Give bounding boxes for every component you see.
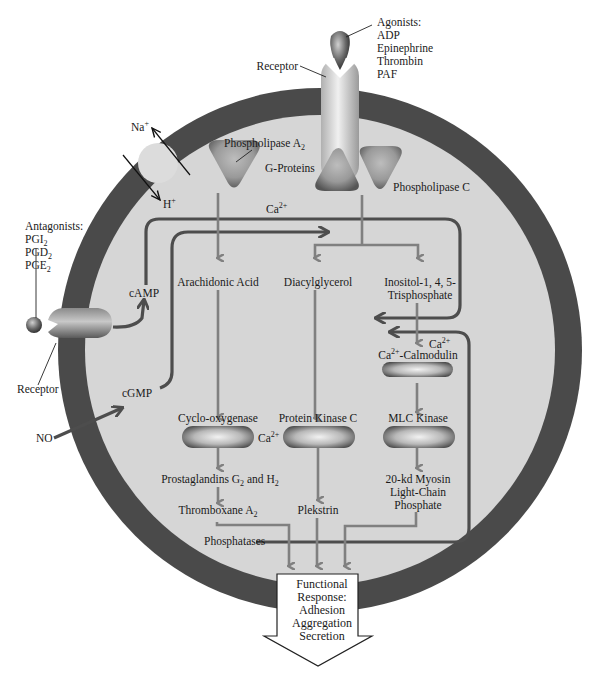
plekstrin-label: Plekstrin xyxy=(298,504,339,517)
cyclo-oxygenase-label: Cyclo-oxygenase xyxy=(178,412,258,425)
myosin-label-line3: Phosphate xyxy=(394,499,441,512)
g-proteins-label: G-Proteins xyxy=(265,162,315,175)
left-receptor-label: Receptor xyxy=(17,383,59,396)
calmodulin-capsule xyxy=(382,362,453,377)
na-ion-label: Na+ xyxy=(131,121,149,134)
response-line-5: Secretion xyxy=(285,630,359,643)
agonist-leader xyxy=(346,25,372,37)
agonists-header: Agonists: xyxy=(377,16,421,29)
thromboxane-label: Thromboxane A2 xyxy=(178,504,257,517)
agonist-adp: ADP xyxy=(377,29,400,42)
agonist-thrombin: Thrombin xyxy=(377,55,423,68)
top-receptor-label: Receptor xyxy=(256,60,298,73)
prostaglandins-label: Prostaglandins G2 and H2 xyxy=(161,473,279,486)
ip3-label-line1: Inositol-1, 4, 5- xyxy=(384,276,456,289)
functional-response-text: Functional Response: Adhesion Aggregatio… xyxy=(285,578,359,643)
phosphatases-label: Phosphatases xyxy=(204,535,265,548)
phospholipase-c-label: Phospholipase C xyxy=(393,181,470,194)
antagonist-pgd2: PGD2 xyxy=(25,246,52,259)
antagonist-pge2: PGE2 xyxy=(25,259,51,272)
arachidonic-acid-label: Arachidonic Acid xyxy=(177,276,258,289)
cgmp-label: cGMP xyxy=(122,387,152,400)
ip3-label-line2: Trisphosphate xyxy=(388,289,453,302)
left-receptor xyxy=(48,308,112,338)
calmodulin-label: Ca2+-Calmodulin xyxy=(378,349,457,362)
agonist-epinephrine: Epinephrine xyxy=(377,42,433,55)
myosin-label-line2: Light-Chain xyxy=(390,486,446,499)
antagonist-pgi2: PGI2 xyxy=(25,233,48,246)
mlc-kinase-capsule xyxy=(383,426,455,448)
myosin-label-line1: 20-kd Myosin xyxy=(386,473,451,486)
ca-top-label: Ca2+ xyxy=(266,203,287,216)
phospholipase-a2-label: Phospholipase A2 xyxy=(224,137,305,150)
antagonists-header: Antagonists: xyxy=(25,220,83,233)
mlc-kinase-label: MLC Kinase xyxy=(388,412,448,425)
ca-pkc-label: Ca2+ xyxy=(258,432,279,445)
no-label: NO xyxy=(36,432,53,445)
diacylglycerol-label: Diacylglycerol xyxy=(284,276,352,289)
na-h-exchanger xyxy=(138,143,178,183)
cyclo-oxygenase-capsule xyxy=(182,426,254,448)
left-receptor-leader xyxy=(38,343,56,385)
protein-kinase-c-capsule xyxy=(283,426,355,448)
camp-label: cAMP xyxy=(129,287,159,300)
antagonist-ligand xyxy=(26,317,42,333)
h-ion-label: H+ xyxy=(163,198,176,211)
agonist-paf: PAF xyxy=(377,68,397,81)
protein-kinase-c-label: Protein Kinase C xyxy=(279,412,358,425)
